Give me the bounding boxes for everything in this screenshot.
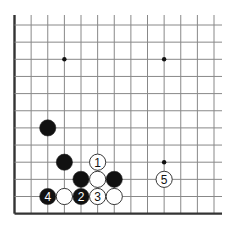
- white-stone-icon: [106, 188, 122, 204]
- white-stone: [90, 171, 106, 187]
- move-number-label: 3: [94, 190, 101, 204]
- black-stone-icon: [73, 171, 89, 187]
- white-stone-1: 1: [90, 154, 106, 170]
- white-stone-icon: [56, 188, 72, 204]
- star-point-icon: [162, 160, 166, 164]
- white-stone: [56, 188, 72, 204]
- black-stone-2: 2: [73, 188, 89, 204]
- star-point-icon: [62, 57, 66, 61]
- white-stone: [106, 188, 122, 204]
- black-stone: [56, 154, 72, 170]
- go-board: 15423: [0, 0, 241, 227]
- black-stone-4: 4: [40, 188, 56, 204]
- move-number-label: 2: [78, 190, 85, 204]
- black-stone: [106, 171, 122, 187]
- black-stone: [40, 120, 56, 136]
- white-stone-3: 3: [90, 188, 106, 204]
- black-stone-icon: [56, 154, 72, 170]
- black-stone: [73, 171, 89, 187]
- black-stone-icon: [106, 171, 122, 187]
- white-stone-5: 5: [156, 171, 172, 187]
- white-stone-icon: [90, 171, 106, 187]
- black-stone-icon: [40, 120, 56, 136]
- move-number-label: 5: [161, 173, 168, 187]
- move-number-label: 1: [94, 156, 101, 170]
- move-number-label: 4: [44, 190, 51, 204]
- star-point-icon: [162, 57, 166, 61]
